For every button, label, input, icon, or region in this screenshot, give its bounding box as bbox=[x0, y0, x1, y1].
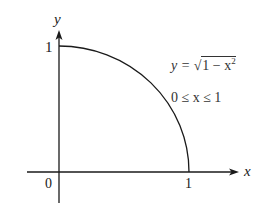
x-tick-label: 1 bbox=[185, 177, 192, 191]
radicand: 1 − x2 bbox=[201, 56, 235, 73]
quarter-circle-curve bbox=[59, 46, 189, 172]
origin-label: 0 bbox=[45, 177, 52, 191]
x-axis-label: x bbox=[244, 164, 251, 179]
y-tick-label: 1 bbox=[45, 40, 53, 55]
y-axis-label: y bbox=[54, 12, 61, 27]
curve-domain: 0 ≤ x ≤ 1 bbox=[171, 91, 221, 105]
square-root: √1 − x2 bbox=[194, 57, 236, 73]
graph-canvas bbox=[0, 0, 272, 212]
curve-equation: y = √1 − x2 bbox=[171, 57, 236, 73]
radicand-exponent: 2 bbox=[231, 56, 236, 66]
radicand-base: 1 − x bbox=[202, 58, 231, 73]
equation-lhs: y = bbox=[171, 58, 190, 73]
